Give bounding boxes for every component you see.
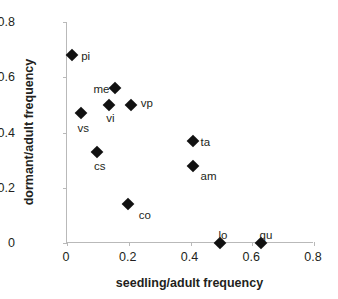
data-point-label: cs	[94, 161, 106, 173]
x-axis-tick-label: 0.8	[293, 251, 333, 264]
x-axis-tick-label: 0.4	[170, 251, 210, 264]
x-axis-tick-label: 0.6	[231, 251, 271, 264]
y-axis-tick-mark	[63, 22, 67, 23]
x-axis-tick-mark	[129, 242, 130, 246]
y-axis-tick-label: 0.6	[0, 71, 15, 84]
data-point-label: me	[93, 84, 109, 96]
y-axis-title: dormant/adult frequency	[22, 12, 36, 252]
y-axis-tick-label: 0.8	[0, 16, 15, 29]
data-point-label: vi	[106, 113, 114, 125]
data-point-label: vp	[141, 98, 153, 110]
data-point-label: lo	[218, 230, 227, 242]
x-axis-tick-label: 0.2	[108, 251, 148, 264]
y-axis-tick-label: 0.2	[0, 182, 15, 195]
data-point-label: am	[201, 171, 217, 183]
y-axis-tick-label: 0.4	[0, 127, 15, 140]
data-point-label: pi	[81, 51, 90, 63]
y-axis-tick-label: 0	[0, 237, 15, 250]
data-point-label: ta	[201, 137, 211, 149]
x-axis-tick-mark	[314, 242, 315, 246]
data-point-label: vs	[77, 123, 89, 135]
scatter-chart: dormant/adult frequency seedling/adult f…	[0, 0, 338, 299]
x-axis-title: seedling/adult frequency	[66, 276, 313, 290]
y-axis-tick-mark	[63, 188, 67, 189]
data-point-label: co	[139, 210, 151, 222]
plot-area	[66, 22, 313, 243]
y-axis-tick-mark	[63, 77, 67, 78]
x-axis-tick-mark	[252, 242, 253, 246]
x-axis-tick-mark	[67, 242, 68, 246]
x-axis-tick-mark	[191, 242, 192, 246]
data-point-label: qu	[260, 230, 273, 242]
x-axis-tick-label: 0	[46, 251, 86, 264]
y-axis-tick-mark	[63, 133, 67, 134]
